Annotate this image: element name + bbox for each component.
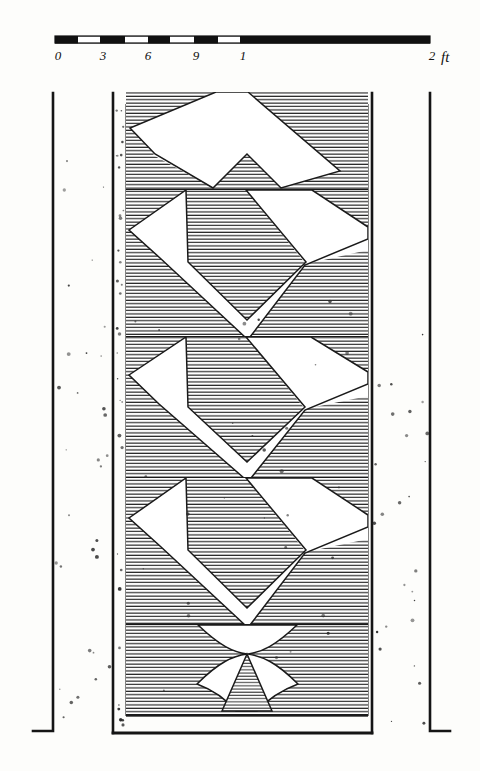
stipple-dot (123, 210, 125, 212)
stipple-dot (121, 141, 124, 144)
stipple-dot (103, 413, 107, 417)
stipple-dot (66, 449, 67, 450)
scale-tick-label-1: 1 (240, 48, 247, 63)
stipple-dot (77, 392, 79, 394)
stipple-dot (374, 463, 376, 465)
stipple-dot (117, 378, 118, 379)
stipple-dot (100, 465, 102, 467)
stipple-dot (290, 651, 292, 653)
carved-panel (126, 92, 368, 716)
stipple-dot (68, 514, 70, 516)
stipple-dot (95, 555, 99, 559)
stipple-dot (95, 678, 98, 681)
stipple-dot (93, 652, 95, 654)
stipple-dot (376, 631, 378, 633)
stipple-dot (414, 569, 417, 572)
stipple-dot (349, 312, 353, 316)
stipple-dot (103, 186, 104, 187)
stipple-dot (106, 454, 109, 457)
stipple-dot (117, 249, 119, 251)
stipple-dot (422, 722, 425, 725)
stipple-dot (70, 701, 74, 705)
stipple-dot (328, 300, 331, 303)
stipple-dot (59, 689, 60, 690)
stipple-dot (97, 458, 100, 461)
stipple-dot (315, 364, 317, 366)
stipple-dot (158, 329, 160, 331)
stipple-dot (385, 625, 387, 627)
scale-segment-8 (240, 36, 430, 43)
stipple-dot (121, 284, 123, 286)
stipple-dot (68, 285, 70, 287)
scale-tick-label-9: 9 (193, 48, 200, 63)
stipple-dot (338, 486, 340, 488)
scale-unit-label: ft (441, 49, 450, 65)
stipple-dot (275, 656, 278, 659)
stipple-dot (425, 461, 426, 462)
scale-segment-2 (100, 36, 125, 43)
stipple-dot (118, 587, 122, 591)
course-5 (126, 625, 368, 716)
stipple-dot (119, 261, 122, 264)
stipple-dot (373, 522, 377, 526)
stipple-dot (120, 569, 123, 572)
stipple-dot (104, 326, 106, 328)
stipple-dot (121, 446, 124, 449)
stipple-dot (95, 539, 98, 542)
scale-tick-label-6: 6 (145, 48, 152, 63)
plate-page: 036912 ft (0, 0, 480, 771)
stipple-dot (243, 322, 247, 326)
stipple-dot (60, 565, 62, 567)
stipple-dot (408, 410, 411, 413)
stipple-dot (411, 618, 415, 622)
scale-segment-0 (55, 36, 78, 43)
stipple-dot (418, 682, 421, 685)
stipple-dot (117, 553, 118, 554)
stipple-dot (391, 412, 395, 416)
stipple-dot (280, 469, 284, 473)
stipple-dot (187, 614, 191, 618)
scale-segment-6 (194, 36, 218, 43)
stipple-dot (421, 401, 423, 403)
stipple-dot (186, 512, 190, 516)
scale-tick-label-2: 2 (429, 48, 436, 63)
stipple-dot (408, 496, 410, 498)
stipple-dot (118, 647, 121, 650)
stipple-dot (116, 280, 119, 283)
stipple-dot (92, 259, 93, 260)
stipple-dot (286, 514, 288, 516)
stipple-dot (331, 556, 334, 559)
stipple-dot (381, 513, 385, 517)
stipple-dot (118, 166, 120, 168)
stipple-dot (120, 719, 122, 721)
stipple-dot (264, 517, 265, 518)
stipple-dot (257, 318, 259, 320)
stipple-dot (238, 338, 241, 341)
stipple-dot (118, 704, 120, 706)
stipple-dot (391, 721, 392, 722)
stipple-dot (403, 584, 405, 586)
scale-bar: 036912 ft (55, 36, 450, 65)
scale-segment-1 (78, 36, 100, 43)
stipple-dot (117, 155, 119, 157)
course-4 (126, 478, 368, 625)
course-1 (126, 92, 368, 190)
stipple-dot (118, 332, 121, 335)
stipple-dot (143, 568, 145, 570)
scale-tick-label-3: 3 (99, 48, 107, 63)
stipple-dot (224, 497, 225, 498)
stipple-dot (163, 690, 165, 692)
stipple-dot (119, 216, 123, 220)
stipple-dot (414, 600, 415, 601)
stipple-dot (66, 160, 68, 162)
stipple-dot (55, 561, 58, 564)
stipple-dot (414, 665, 415, 666)
stipple-dot (57, 386, 61, 390)
stipple-dot (100, 355, 102, 357)
stipple-dot (232, 423, 233, 424)
stipple-dot (102, 407, 106, 411)
stipple-dot (117, 434, 121, 438)
stipple-dot (398, 501, 402, 505)
stipple-dot (378, 647, 381, 650)
scale-segment-3 (125, 36, 148, 43)
